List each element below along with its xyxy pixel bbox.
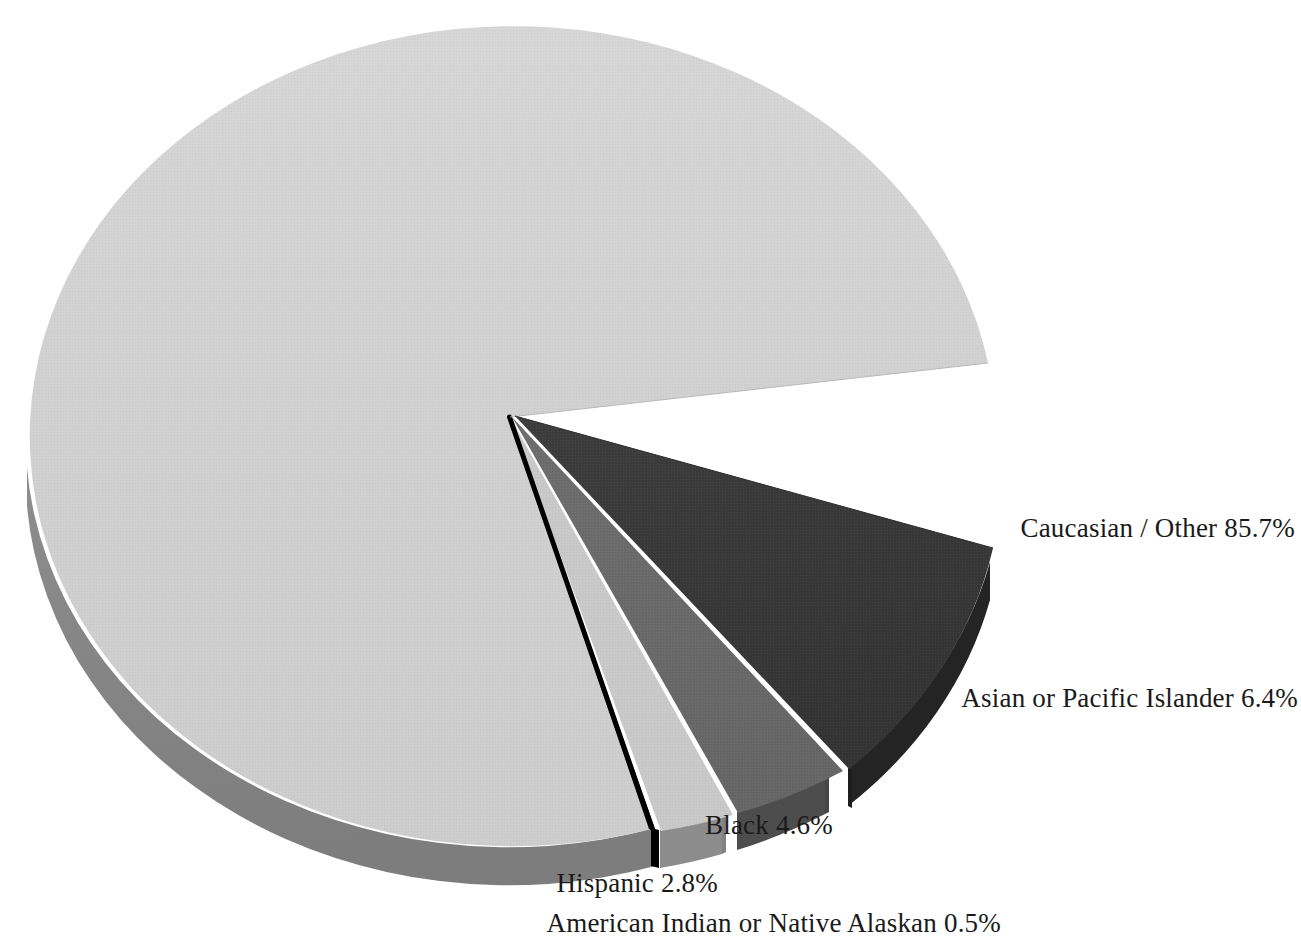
slice-side-american-indian (651, 828, 659, 868)
pie-chart-3d (0, 0, 1301, 944)
slice-label-caucasian: Caucasian / Other 85.7% (1020, 513, 1295, 544)
chart-canvas: Caucasian / Other 85.7% Asian or Pacific… (0, 0, 1301, 944)
slice-label-asian: Asian or Pacific Islander 6.4% (961, 683, 1298, 714)
slice-label-hispanic: Hispanic 2.8% (556, 868, 718, 899)
slice-label-american-indian: American Indian or Native Alaskan 0.5% (547, 908, 1001, 939)
slice-label-black: Black 4.6% (705, 810, 833, 841)
